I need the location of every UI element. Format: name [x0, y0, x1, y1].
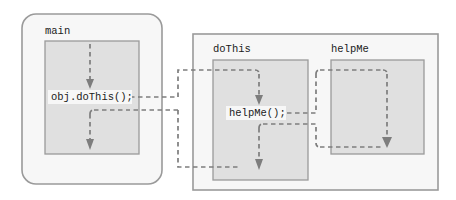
helpme-frame-title: helpMe	[331, 43, 369, 55]
call-flow-diagram: main doThis helpMe doThis body =========…	[0, 0, 456, 200]
helpme-frame-body	[331, 60, 424, 154]
main-frame-title: main	[45, 25, 70, 37]
diagram-canvas: main doThis helpMe doThis body =========…	[0, 0, 456, 200]
statement-helpme: helpMe();	[229, 107, 286, 119]
statement-obj-dothis: obj.doThis();	[51, 91, 133, 103]
dothis-frame-title: doThis	[213, 43, 251, 55]
